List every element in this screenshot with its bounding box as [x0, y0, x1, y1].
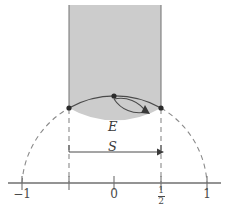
- diagram-canvas: [0, 0, 229, 208]
- semicircle-dashed-left: [22, 108, 69, 183]
- semicircle-dashed-right: [161, 108, 207, 183]
- shaded-region: [69, 5, 161, 120]
- fraction-denominator: 2: [150, 197, 172, 206]
- segment-label-s: S: [108, 140, 117, 153]
- point-arc-apex: [111, 93, 116, 98]
- figure-container: E S −1 0 1 1 2: [0, 0, 229, 208]
- x-axis-label-zero: 0: [104, 188, 124, 200]
- x-axis-label-neg-one: −1: [11, 188, 33, 200]
- arc-label-e: E: [108, 120, 118, 133]
- x-axis-label-one-half: 1 2: [150, 186, 172, 207]
- point-arc-endpoint-left: [66, 105, 71, 110]
- point-arc-endpoint-right: [158, 105, 163, 110]
- fraction-numerator: 1: [150, 186, 172, 195]
- x-axis-label-one: 1: [197, 188, 217, 200]
